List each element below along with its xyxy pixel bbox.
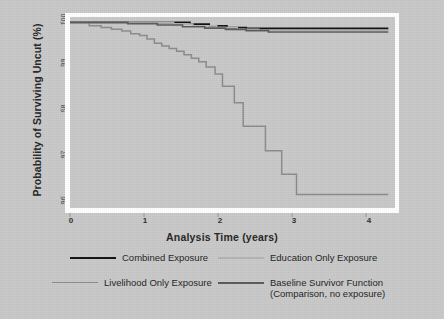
legend-swatch-combined [70, 257, 116, 259]
series-layer [70, 22, 388, 194]
series-line-livelihood-only-exposure [79, 22, 388, 194]
legend-swatch-education [218, 257, 264, 259]
legend-swatch-livelihood [52, 282, 98, 283]
legend-item-combined[interactable]: Combined Exposure [70, 252, 208, 263]
legend-sublabel-baseline: (Comparison, no exposure) [270, 288, 385, 299]
figure-container: Probability of Surviving Uncut (%) 100 9… [0, 0, 444, 319]
legend: Combined Exposure Education Only Exposur… [0, 249, 444, 311]
legend-item-baseline[interactable]: Baseline Survivor Function (Comparison, … [218, 277, 385, 299]
legend-swatch-baseline [218, 282, 264, 284]
legend-label-baseline: Baseline Survivor Function [270, 277, 385, 288]
legend-label-education: Education Only Exposure [270, 252, 377, 263]
legend-label-livelihood: Livelihood Only Exposure [104, 277, 212, 288]
plot-frame [65, 13, 399, 213]
legend-item-education[interactable]: Education Only Exposure [218, 252, 377, 263]
legend-label-combined: Combined Exposure [122, 252, 208, 263]
legend-item-livelihood[interactable]: Livelihood Only Exposure [52, 277, 212, 288]
tick-marks [60, 22, 366, 217]
